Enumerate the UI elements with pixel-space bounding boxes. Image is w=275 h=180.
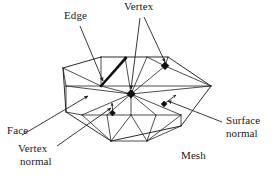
vertex-normal-arrow: [109, 103, 116, 116]
label-vertex-normal-line2: normal: [20, 156, 52, 168]
normal-arrows: [109, 95, 176, 116]
mesh-wireframe: [63, 57, 211, 141]
label-face: Face: [7, 125, 28, 137]
leader-vertex-to-center: [131, 18, 140, 89]
label-vertex-normal-line1: Vertex: [18, 143, 47, 155]
highlighted-edge: [101, 58, 126, 86]
leader-face: [22, 96, 88, 135]
mesh-diagram-figure: Edge Vertex Face Vertex normal Surface n…: [0, 0, 275, 180]
leader-edge: [80, 26, 103, 81]
label-vertex: Vertex: [124, 1, 153, 13]
label-surface-normal-line1: Surface: [226, 115, 260, 127]
mesh-center-fan: [66, 86, 211, 115]
label-mesh: Mesh: [181, 150, 206, 162]
leader-vertex-normal: [57, 108, 111, 146]
label-surface-normal-line2: normal: [226, 128, 258, 140]
leader-vertex-to-upper-right: [144, 17, 165, 62]
label-edge: Edge: [64, 10, 87, 22]
mesh-lower-triangles: [66, 86, 181, 141]
